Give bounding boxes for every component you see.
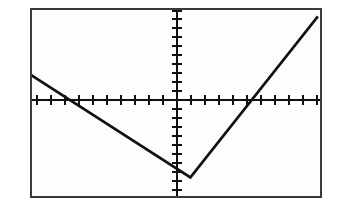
plot-area bbox=[32, 10, 320, 196]
calculator-screen-frame bbox=[30, 8, 322, 198]
page-title: Graphing Calculator Screen bbox=[0, 0, 1, 1]
calculator-screenshot: Graphing Calculator Screen bbox=[0, 0, 337, 206]
graph-canvas bbox=[32, 10, 320, 196]
